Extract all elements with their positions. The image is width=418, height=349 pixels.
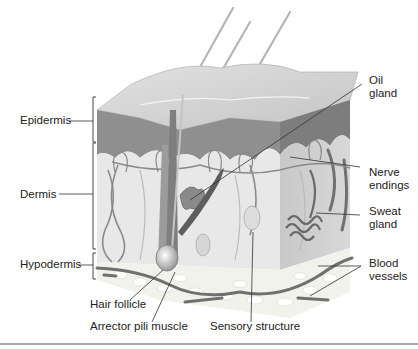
sensory-corpuscle xyxy=(196,234,210,256)
label-hair-follicle: Hair follicle xyxy=(90,298,146,311)
label-dermis: Dermis xyxy=(20,188,56,201)
label-oil-gland: Oil gland xyxy=(369,74,397,100)
label-sweat-gland-line2: gland xyxy=(369,218,401,231)
label-oil-gland-line1: Oil xyxy=(369,74,397,87)
label-nerve-endings-line2: endings xyxy=(369,179,409,192)
skin-illustration xyxy=(0,0,418,349)
layer-brackets xyxy=(93,97,96,279)
label-nerve-endings-line1: Nerve xyxy=(369,166,409,179)
label-nerve-endings: Nerve endings xyxy=(369,166,409,192)
label-sweat-gland-line1: Sweat xyxy=(369,205,401,218)
label-blood-vessels-line1: Blood xyxy=(369,257,407,270)
bottom-divider xyxy=(0,343,418,345)
sensory-corpuscle xyxy=(244,206,260,230)
label-sweat-gland: Sweat gland xyxy=(369,205,401,231)
label-hypodermis: Hypodermis xyxy=(20,258,81,271)
label-blood-vessels: Blood vessels xyxy=(369,257,407,283)
label-oil-gland-line2: gland xyxy=(369,87,397,100)
label-sensory-structure: Sensory structure xyxy=(210,320,300,333)
label-blood-vessels-line2: vessels xyxy=(369,270,407,283)
skin-diagram: Epidermis Dermis Hypodermis Hair follicl… xyxy=(0,0,418,349)
label-epidermis: Epidermis xyxy=(20,114,71,127)
label-arrector-pili-muscle: Arrector pili muscle xyxy=(90,320,188,333)
